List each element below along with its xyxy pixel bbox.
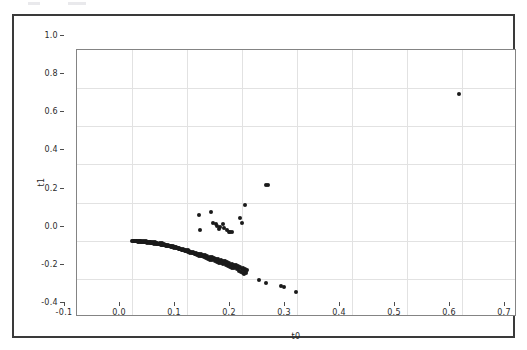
data-point <box>294 290 298 294</box>
y-tick-label: 1.0 <box>36 31 58 40</box>
y-tick-mark <box>60 111 64 112</box>
gridline-horizontal <box>77 279 515 280</box>
y-tick-mark <box>60 226 64 227</box>
data-point <box>257 278 261 282</box>
scatter-plot-area[interactable] <box>76 49 516 316</box>
data-point <box>240 221 244 225</box>
x-tick-mark <box>119 302 120 306</box>
gridline-horizontal <box>77 88 515 89</box>
data-point <box>209 210 213 214</box>
y-tick-mark <box>60 35 64 36</box>
y-tick-mark <box>60 188 64 189</box>
x-tick-label: 0.5 <box>387 308 401 317</box>
gridline-vertical <box>407 50 408 315</box>
x-tick-label: 0.3 <box>277 308 291 317</box>
x-tick-label: 0.2 <box>222 308 236 317</box>
x-tick-label: 0.6 <box>442 308 456 317</box>
gridline-vertical <box>462 50 463 315</box>
data-point <box>457 92 461 96</box>
figure-frame: -0.10.00.10.20.30.40.50.60.7-0.4-0.20.00… <box>12 14 515 338</box>
x-tick-mark <box>174 302 175 306</box>
x-tick-mark <box>504 302 505 306</box>
gridline-horizontal <box>77 126 515 127</box>
x-tick-label: 0.7 <box>497 308 511 317</box>
data-point <box>266 183 270 187</box>
y-tick-label: -0.4 <box>36 298 58 307</box>
x-tick-mark <box>284 302 285 306</box>
y-tick-label: 0.8 <box>36 69 58 78</box>
data-point <box>197 213 201 217</box>
x-axis-label: t0 <box>292 332 301 341</box>
gridline-vertical <box>132 50 133 315</box>
data-point <box>243 203 247 207</box>
gridline-vertical <box>187 50 188 315</box>
gridline-horizontal <box>77 164 515 165</box>
y-tick-label: -0.2 <box>36 259 58 268</box>
capture-artifact-right <box>68 2 86 5</box>
x-tick-mark <box>64 302 65 306</box>
capture-artifact-left <box>28 2 40 5</box>
x-tick-mark <box>449 302 450 306</box>
data-point <box>238 216 242 220</box>
data-point <box>282 285 286 289</box>
y-tick-mark <box>60 73 64 74</box>
y-axis-label: t1 <box>37 178 46 187</box>
data-point <box>221 222 225 226</box>
data-point <box>230 230 234 234</box>
gridline-vertical <box>297 50 298 315</box>
data-point <box>264 281 268 285</box>
y-tick-mark <box>60 264 64 265</box>
y-tick-label: 0.0 <box>36 221 58 230</box>
x-tick-label: 0.1 <box>167 308 181 317</box>
y-tick-mark <box>60 302 64 303</box>
data-point <box>244 271 248 275</box>
x-tick-mark <box>394 302 395 306</box>
data-point <box>198 228 202 232</box>
x-tick-label: -0.1 <box>56 308 73 317</box>
y-tick-label: 0.6 <box>36 107 58 116</box>
gridline-horizontal <box>77 203 515 204</box>
gridline-vertical <box>352 50 353 315</box>
x-tick-mark <box>229 302 230 306</box>
y-tick-label: 0.4 <box>36 145 58 154</box>
x-tick-mark <box>339 302 340 306</box>
y-tick-mark <box>60 149 64 150</box>
x-tick-label: 0.0 <box>112 308 126 317</box>
figure-window: -0.10.00.10.20.30.40.50.60.7-0.4-0.20.00… <box>0 0 527 350</box>
x-tick-label: 0.4 <box>332 308 346 317</box>
